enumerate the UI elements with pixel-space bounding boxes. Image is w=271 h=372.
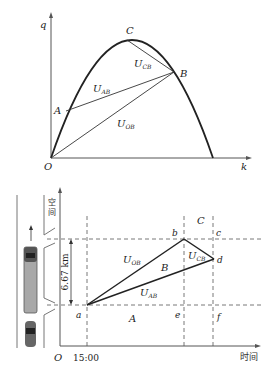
label-u-ob: UOB — [117, 118, 135, 130]
point-label-d: d — [217, 255, 223, 265]
point-label-b: B — [179, 68, 187, 79]
region-label-a: A — [128, 313, 136, 324]
traffic-flow-diagram: q k O C B A UCB UAB UOB — [0, 0, 271, 372]
region-label-c: C — [197, 215, 205, 226]
time-tick-1500: 15:00 — [73, 353, 99, 363]
k-axis-label: k — [241, 161, 247, 172]
point-label-c: c — [216, 228, 221, 238]
line-ob — [51, 72, 174, 158]
q-axis-label: q — [40, 19, 46, 30]
label-u-cb: UCB — [134, 58, 152, 70]
line-ab — [66, 72, 174, 111]
bottom-origin-label: O — [54, 352, 62, 363]
point-label-a: A — [53, 105, 61, 116]
label-u-ab: UAB — [140, 287, 158, 299]
region-label-b: B — [160, 262, 168, 273]
bottom-chart: 6.67 km 空 间 时间 O 15:00 a b c d e f A B C… — [17, 187, 264, 363]
time-axis-arrow-icon — [255, 344, 261, 348]
top-chart: q k O C B A UCB UAB UOB — [40, 12, 252, 172]
point-label-f: f — [216, 312, 222, 322]
label-u-ab: UAB — [93, 83, 111, 95]
k-axis-arrow-icon — [246, 156, 252, 160]
direction-arrow-icon — [29, 225, 33, 230]
dimension-arrow-top-icon — [69, 239, 73, 244]
time-axis-label: 时间 — [240, 351, 258, 362]
point-label-a: a — [76, 310, 81, 320]
q-axis-arrow-icon — [49, 12, 53, 18]
point-label-c: C — [126, 25, 134, 36]
dimension-arrow-bottom-icon — [69, 300, 73, 305]
space-axis-arrow-icon — [58, 187, 62, 193]
point-label-b: b — [172, 228, 178, 238]
truck-icon — [24, 247, 37, 313]
space-axis-label-top: 空 — [48, 197, 56, 207]
space-axis-label-bottom: 间 — [48, 208, 56, 217]
flow-density-curve — [51, 40, 213, 158]
origin-label: O — [44, 161, 52, 172]
label-u-ob: UOB — [123, 254, 141, 266]
distance-label: 6.67 km — [60, 253, 70, 290]
car-icon — [25, 321, 36, 347]
point-label-e: e — [175, 310, 180, 320]
wave-u-ob — [87, 239, 184, 305]
dashed-guides — [47, 216, 264, 346]
